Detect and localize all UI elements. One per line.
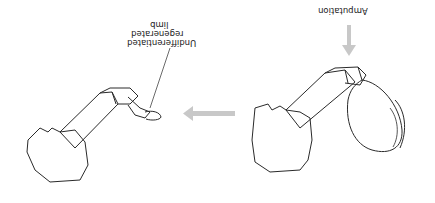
intact-limb xyxy=(252,67,405,172)
pointer-line xyxy=(150,48,170,108)
undifferentiated-label-line2: regenerated xyxy=(131,29,183,38)
amputation-label: Amputation xyxy=(318,6,368,15)
regenerated-limb xyxy=(27,88,161,182)
diagram-drawing xyxy=(0,0,435,203)
regeneration-diagram: Amputation limb regenerated Undifferenti… xyxy=(0,0,435,203)
undifferentiated-label-line1: Undifferentiated xyxy=(127,38,196,47)
left-arrow-icon xyxy=(183,106,235,121)
amputation-arrow-icon xyxy=(342,25,356,56)
undifferentiated-label-line3: limb xyxy=(150,20,168,29)
